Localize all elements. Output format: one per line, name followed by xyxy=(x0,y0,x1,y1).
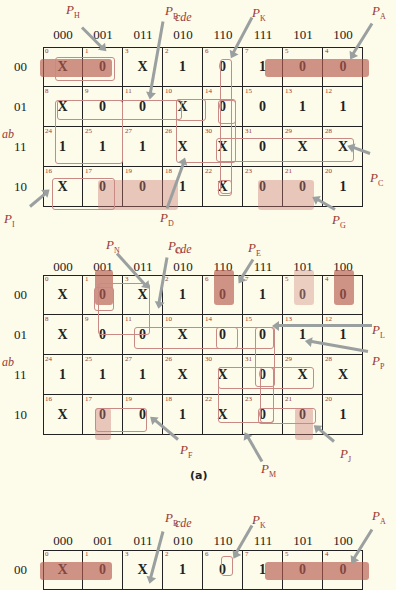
group-loop xyxy=(52,178,115,210)
label-letter: P xyxy=(165,510,173,525)
row-header: 01 xyxy=(14,327,27,343)
column-header: 111 xyxy=(243,27,283,43)
cell-value: 1 xyxy=(283,99,322,115)
column-header: 101 xyxy=(283,533,323,549)
cell-index: 26 xyxy=(165,127,172,135)
kmap-cell: 26X xyxy=(163,355,203,395)
column-header: 000 xyxy=(43,533,83,549)
cell-index: 30 xyxy=(205,355,212,363)
cell-index: 12 xyxy=(325,87,332,95)
cell-index: 24 xyxy=(45,355,52,363)
cell-index: 0 xyxy=(45,550,49,558)
cell-index: 5 xyxy=(285,275,289,283)
cell-value: 1 xyxy=(243,287,282,303)
row-header: 11 xyxy=(14,367,27,383)
column-header: 101 xyxy=(283,27,323,43)
cell-value: 1 xyxy=(323,179,363,195)
column-header: 000 xyxy=(43,27,83,43)
group-loop xyxy=(221,556,233,576)
label-letter: P xyxy=(106,237,114,252)
cell-index: 25 xyxy=(85,355,92,363)
cell-value: X xyxy=(163,367,202,383)
column-header: 010 xyxy=(163,259,203,275)
cell-index: 6 xyxy=(205,275,209,283)
cell-index: 6 xyxy=(205,47,209,55)
cell-value: 1 xyxy=(163,287,202,303)
row-header: 10 xyxy=(14,407,27,423)
row-header: 00 xyxy=(14,562,27,578)
label-subscript: L xyxy=(380,331,385,340)
prime-implicant-label: PJ xyxy=(340,446,351,464)
prime-implicant-label: PG xyxy=(332,212,346,230)
pointer-arrow-icon xyxy=(276,324,372,327)
kmap-cell: 241 xyxy=(43,355,83,395)
cell-value: 1 xyxy=(43,367,82,383)
cell-index: 3 xyxy=(125,275,129,283)
cell-index: 11 xyxy=(125,87,132,95)
label-letter: P xyxy=(66,2,74,17)
prime-implicant-label: PD xyxy=(160,210,174,228)
label-letter: P xyxy=(370,170,378,185)
prime-implicant-label: PO xyxy=(168,238,182,256)
label-letter: P xyxy=(248,240,256,255)
label-subscript: P xyxy=(380,362,384,371)
cell-index: 24 xyxy=(45,127,52,135)
kmap-cell: 28X xyxy=(323,355,363,395)
label-letter: P xyxy=(168,238,176,253)
label-letter: P xyxy=(372,3,380,18)
group-loop xyxy=(57,100,182,120)
label-subscript: B xyxy=(173,12,178,21)
cell-index: 4 xyxy=(325,275,329,283)
label-subscript: A xyxy=(380,12,386,21)
cell-index: 1 xyxy=(85,47,89,55)
cell-index: 14 xyxy=(205,87,212,95)
cell-index: 16 xyxy=(45,167,52,175)
kmap-cell: 21 xyxy=(163,47,203,87)
row-header: 11 xyxy=(14,139,27,155)
cell-index: 14 xyxy=(205,315,212,323)
cell-index: 27 xyxy=(125,355,132,363)
column-header: 001 xyxy=(83,533,123,549)
kmap-cell: 150 xyxy=(243,87,283,127)
prime-implicant-label: PL xyxy=(372,322,385,340)
label-subscript: E xyxy=(256,249,261,258)
kmap-cell: 8X xyxy=(43,315,83,355)
label-subscript: A xyxy=(380,517,386,526)
column-header: 000 xyxy=(43,259,83,275)
cell-index: 9 xyxy=(85,87,89,95)
prime-implicant-label: PA xyxy=(372,508,386,526)
group-PE-fill xyxy=(214,270,234,305)
cell-value: X xyxy=(323,367,363,383)
cell-index: 17 xyxy=(85,395,92,403)
label-letter: P xyxy=(4,211,12,226)
prime-implicant-label: PK xyxy=(252,5,266,23)
label-subscript: F xyxy=(188,451,192,460)
group-loop xyxy=(95,408,147,432)
group-loop xyxy=(218,180,232,196)
row-header: 10 xyxy=(14,179,27,195)
cell-index: 2 xyxy=(165,275,169,283)
cell-index: 7 xyxy=(245,47,249,55)
row-header: 00 xyxy=(14,287,27,303)
cell-index: 4 xyxy=(325,550,329,558)
label-subscript: O xyxy=(176,247,182,256)
figure-caption: (a) xyxy=(190,469,207,482)
cell-index: 1 xyxy=(85,275,89,283)
cell-index: 28 xyxy=(325,127,332,135)
group-loop xyxy=(94,287,114,311)
label-letter: P xyxy=(252,512,260,527)
label-subscript: C xyxy=(378,179,383,188)
kmap-cell: 16X xyxy=(43,395,83,435)
cell-index: 12 xyxy=(325,315,332,323)
column-header: 010 xyxy=(163,533,203,549)
label-letter: P xyxy=(160,210,168,225)
prime-implicant-label: PI xyxy=(4,211,15,229)
cell-value: 1 xyxy=(83,367,122,383)
cell-value: 1 xyxy=(163,562,202,578)
label-subscript: D xyxy=(168,219,174,228)
prime-implicant-label: PB xyxy=(165,510,178,528)
cell-index: 3 xyxy=(125,47,129,55)
row-header: 01 xyxy=(14,99,27,115)
prime-implicant-label: PH xyxy=(66,2,80,20)
label-subscript: M xyxy=(269,470,276,479)
